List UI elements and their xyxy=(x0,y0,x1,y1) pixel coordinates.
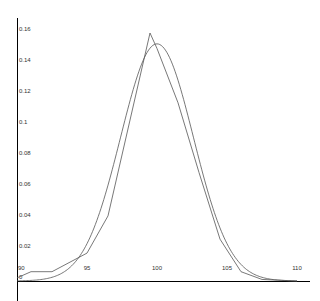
x-tick-label: 105 xyxy=(222,265,233,271)
x-tick-labels: 9095100105110 xyxy=(18,265,302,271)
chart: 00.020.040.060.080.10.120.140.16 9095100… xyxy=(0,0,320,301)
x-tick-label: 90 xyxy=(18,265,25,271)
y-tick-label: 0.16 xyxy=(19,26,31,32)
y-tick-labels: 00.020.040.060.080.10.120.140.16 xyxy=(19,26,31,280)
y-tick-label: 0.04 xyxy=(19,212,31,218)
y-tick-label: 0.02 xyxy=(19,243,31,249)
empirical-line xyxy=(17,33,297,281)
y-tick-label: 0.12 xyxy=(19,88,31,94)
x-tick-label: 110 xyxy=(292,265,302,271)
y-tick-label: 0.14 xyxy=(19,57,31,63)
x-tick-label: 100 xyxy=(152,265,163,271)
y-tick-label: 0.06 xyxy=(19,181,31,187)
normal-fit-curve xyxy=(17,44,297,281)
y-tick-label: 0.1 xyxy=(19,119,28,125)
x-tick-label: 95 xyxy=(84,265,91,271)
y-tick-label: 0.08 xyxy=(19,150,31,156)
